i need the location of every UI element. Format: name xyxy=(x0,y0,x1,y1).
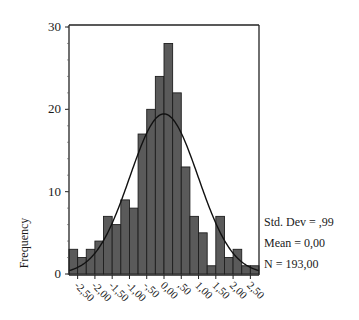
histogram-bar xyxy=(129,208,138,274)
histogram-bar xyxy=(112,225,121,274)
histogram-bar xyxy=(190,216,199,274)
histogram-bar xyxy=(147,109,156,274)
n-label: N = 193,00 xyxy=(264,254,334,275)
x-tick-label: 2,00 xyxy=(228,279,250,301)
histogram-bar xyxy=(224,258,233,274)
histogram-bar xyxy=(95,241,104,274)
histogram-bar xyxy=(164,43,173,274)
x-tick-label: 0,00 xyxy=(159,279,181,301)
histogram-bars xyxy=(69,43,259,274)
std-dev-label: Std. Dev = ,99 xyxy=(264,212,334,233)
x-tick-label: 1,50 xyxy=(210,279,232,301)
histogram-bar xyxy=(121,200,130,274)
mean-label: Mean = 0,00 xyxy=(264,233,334,254)
x-axis-ticks: -2,50-2,00-1,50-1,00-,500,00,501,001,502… xyxy=(72,275,267,304)
x-tick-label: 2,50 xyxy=(245,279,267,301)
histogram-bar xyxy=(138,134,147,274)
y-tick-label: 30 xyxy=(48,19,61,34)
y-tick-label: 10 xyxy=(48,184,61,199)
y-tick-label: 0 xyxy=(55,266,62,281)
histogram-chart: 0102030 -2,50-2,00-1,50-1,00-,500,00,501… xyxy=(0,0,359,320)
y-tick-label: 20 xyxy=(48,101,61,116)
y-axis-ticks: 0102030 xyxy=(48,19,69,281)
x-tick-label: 1,00 xyxy=(193,279,215,301)
stats-legend: Std. Dev = ,99 Mean = 0,00 N = 193,00 xyxy=(264,212,334,275)
histogram-bar xyxy=(207,266,216,274)
x-tick-label: ,50 xyxy=(176,279,195,298)
histogram-bar xyxy=(199,233,208,274)
histogram-bar xyxy=(181,167,190,274)
y-axis-label: Frequency xyxy=(17,218,31,269)
histogram-bar xyxy=(155,76,164,274)
